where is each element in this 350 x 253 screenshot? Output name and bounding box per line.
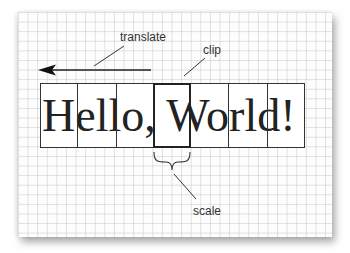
clip-leader-line — [184, 58, 205, 76]
annotation-lines — [0, 0, 350, 253]
translate-leader-line — [94, 46, 124, 66]
scale-brace-icon — [154, 152, 190, 170]
scale-leader-line — [174, 174, 196, 199]
